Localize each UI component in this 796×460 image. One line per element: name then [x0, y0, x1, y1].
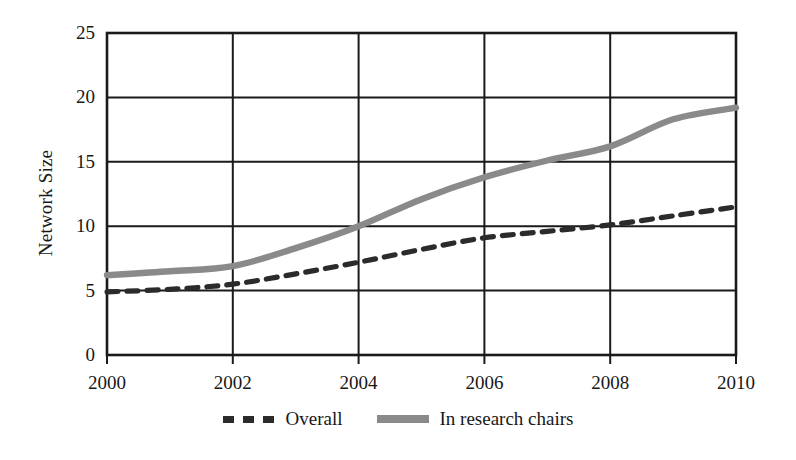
data-series-layer [107, 108, 736, 292]
chart-figure: Network Size 0510152025 2000200220042006… [0, 0, 796, 460]
legend-entry: Overall [223, 408, 343, 430]
legend-swatch-dashed [223, 416, 275, 423]
horizontal-gridlines [107, 33, 736, 355]
legend-label: Overall [286, 408, 343, 430]
chart-legend: OverallIn research chairs [0, 408, 796, 430]
plot-area [0, 0, 796, 460]
plot-frame [107, 33, 736, 355]
legend-entry: In research chairs [377, 408, 574, 430]
data-series-line-1 [107, 207, 736, 292]
legend-swatch-solid [377, 415, 429, 423]
plot-border [107, 33, 736, 355]
legend-label: In research chairs [440, 408, 574, 430]
